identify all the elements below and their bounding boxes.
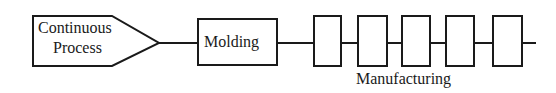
continuous-process-label-line2: Process <box>53 40 102 56</box>
manufacturing-station-2 <box>358 16 387 66</box>
manufacturing-station-5 <box>493 16 522 66</box>
manufacturing-station-3 <box>402 16 430 66</box>
manufacturing-station-4 <box>446 16 474 66</box>
continuous-process-label-line1: Continuous <box>38 20 112 36</box>
manufacturing-station-1 <box>314 16 341 66</box>
molding-label: Molding <box>204 34 259 50</box>
manufacturing-label: Manufacturing <box>356 71 451 87</box>
